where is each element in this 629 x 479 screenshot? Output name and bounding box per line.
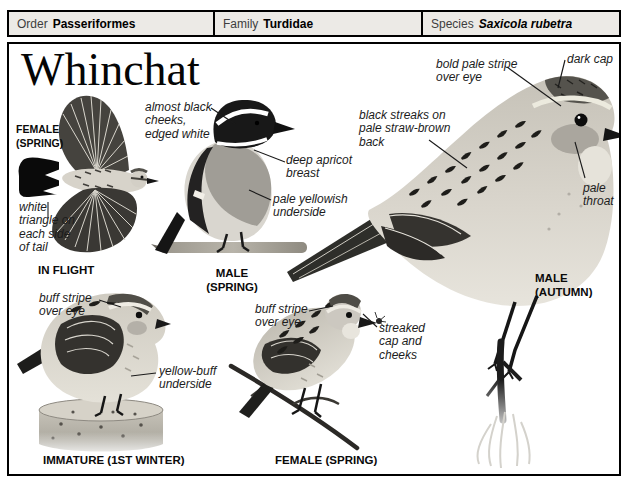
bird-plate-art — [9, 44, 619, 474]
annotation-streaked-cap-cheeks: streaked cap and cheeks — [379, 322, 439, 362]
male-spring-branch — [159, 242, 307, 253]
immature-cheek — [127, 321, 147, 335]
order-label: Order — [17, 17, 48, 31]
male-spring-head — [213, 100, 276, 148]
annotation-bold-pale-stripe: bold pale stripe over eye — [436, 58, 528, 85]
annotation-pale-yellowish-underside: pale yellowish underside — [273, 193, 367, 220]
field-guide-page: Order Passeriformes Family Turdidae Spec… — [0, 0, 629, 479]
species-value: Saxicola rubetra — [479, 17, 572, 31]
family-label: Family — [223, 17, 258, 31]
male-autumn-pale-throat — [578, 146, 612, 186]
annotation-almost-black-cheeks: almost black cheeks, edged white — [145, 101, 217, 141]
annotation-black-streaks-back: black streaks on pale straw-brown back — [359, 109, 452, 149]
caption-female-spring-flight: FEMALE (SPRING) — [16, 123, 72, 150]
annotation-dark-cap: dark cap — [567, 53, 619, 66]
female-pale-throat — [342, 323, 360, 339]
annotation-pale-throat: pale throat — [583, 182, 629, 209]
taxonomy-bar: Order Passeriformes Family Turdidae Spec… — [7, 10, 621, 37]
caption-in-flight: IN FLIGHT — [38, 263, 94, 277]
species-label: Species — [431, 17, 474, 31]
caption-male-autumn: MALE (AUTUMN) — [535, 271, 620, 300]
male-spring-beak — [273, 122, 295, 134]
flight-beak — [147, 178, 159, 184]
male-autumn-legs — [488, 296, 537, 379]
immature-eye — [136, 312, 142, 318]
taxonomy-species-cell: Species Saxicola rubetra — [421, 12, 619, 35]
family-value: Turdidae — [263, 17, 313, 31]
caption-male-spring: MALE (SPRING) — [202, 266, 262, 295]
immature-wing — [55, 315, 124, 374]
annotation-buff-stripe-female: buff stripe over eye — [255, 303, 317, 330]
annotation-white-triangle-tail: white triangle on each side of tail — [19, 201, 77, 255]
taxonomy-order-cell: Order Passeriformes — [9, 12, 213, 35]
taxonomy-family-cell: Family Turdidae — [213, 12, 421, 35]
male-autumn-eye — [575, 114, 588, 127]
annotation-yellow-buff-underside: yellow-buff underside — [159, 365, 239, 392]
caption-immature: IMMATURE (1ST WINTER) — [43, 453, 185, 467]
female-eye — [346, 312, 352, 318]
annotation-deep-apricot-breast: deep apricot breast — [286, 154, 370, 181]
order-value: Passeriformes — [53, 17, 136, 31]
plate-frame: Whinchat — [7, 42, 621, 476]
caption-female-spring: FEMALE (SPRING) — [275, 453, 377, 467]
annotation-buff-stripe-immature: buff stripe over eye — [39, 292, 101, 319]
